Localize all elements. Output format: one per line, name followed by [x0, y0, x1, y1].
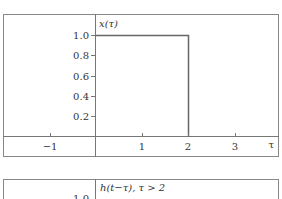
- y-tick-label: 0.2: [73, 111, 89, 122]
- plot-title: h(t−τ), τ > 2: [100, 182, 165, 193]
- x-axis-label: τ: [268, 139, 274, 150]
- y-tick-label: 0.4: [73, 91, 89, 102]
- chart-canvas: 1.0 0.8 0.6 0.4 0.2 −1 1 2 3 τ x(τ) h(t−…: [0, 0, 282, 199]
- x-tick-label: 2: [185, 141, 191, 152]
- y-tick-label: 1.0: [73, 193, 89, 199]
- signal-line: [96, 36, 189, 137]
- y-tick-label: 1.0: [73, 30, 89, 41]
- top-plot: 1.0 0.8 0.6 0.4 0.2 −1 1 2 3 τ x(τ): [3, 14, 279, 157]
- x-tick-label: 3: [232, 141, 238, 152]
- x-tick-label: −1: [43, 141, 58, 152]
- y-ticks: 1.0 0.8 0.6 0.4 0.2: [73, 30, 95, 122]
- plot-title: x(τ): [99, 18, 118, 29]
- y-tick-label: 0.6: [73, 71, 89, 82]
- x-tick-label: 1: [139, 141, 145, 152]
- y-tick-label: 0.8: [73, 50, 89, 61]
- bottom-plot: h(t−τ), τ > 2 1.0: [4, 179, 279, 199]
- x-ticks: −1 1 2 3 τ: [43, 133, 275, 152]
